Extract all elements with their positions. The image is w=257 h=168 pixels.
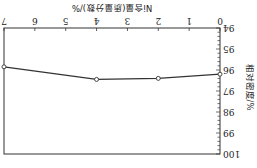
plot-frame <box>4 28 220 154</box>
y-tick-label: 94 <box>223 23 235 33</box>
x-tick-label: 5 <box>63 16 69 26</box>
y-tick-label: 96 <box>223 65 235 75</box>
series-line <box>4 67 220 80</box>
y-tick-label: 99 <box>223 128 235 138</box>
data-point-marker <box>156 76 160 80</box>
data-point-marker <box>218 72 222 76</box>
x-tick-label: 0 <box>217 16 223 26</box>
axes: 01234567949596979899100 <box>1 16 240 159</box>
x-tick-label: 1 <box>186 16 192 26</box>
y-tick-label: 95 <box>223 44 235 54</box>
y-tick-label: 100 <box>223 149 240 159</box>
y-tick-label: 97 <box>223 86 235 96</box>
x-tick-label: 7 <box>1 16 7 26</box>
chart-figure: 01234567949596979899100 Ni含量(质量分数)/% 相对密… <box>0 0 257 168</box>
x-tick-label: 2 <box>155 16 161 26</box>
x-tick-label: 3 <box>124 16 130 26</box>
y-tick-label: 98 <box>223 107 235 117</box>
x-axis-title: Ni含量(质量分数)/% <box>72 3 152 13</box>
y-axis-title: 相对密度/% <box>245 64 255 111</box>
data-series <box>2 65 222 82</box>
x-tick-label: 4 <box>93 16 99 26</box>
x-tick-label: 6 <box>32 16 38 26</box>
data-point-marker <box>95 77 99 81</box>
line-chart: 01234567949596979899100 Ni含量(质量分数)/% 相对密… <box>0 0 257 168</box>
data-point-marker <box>2 65 6 69</box>
